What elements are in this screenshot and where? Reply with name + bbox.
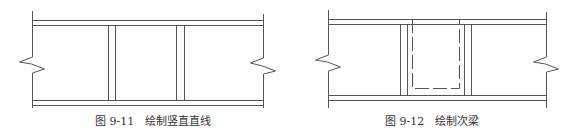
right-break-line-icon (534, 12, 559, 108)
secondary-beam-dashed-outline (413, 19, 460, 89)
right-break-line-icon (251, 14, 276, 108)
beam-drawings (0, 0, 574, 137)
caption-figure-9-11: 图 9-11 绘制竖直直线 (95, 116, 211, 128)
drawing-secondary-beam (316, 10, 559, 108)
caption-figure-9-12: 图 9-12 绘制次梁 (385, 116, 479, 128)
figure-panel: 图 9-11 绘制竖直直线 图 9-12 绘制次梁 (0, 0, 574, 137)
drawing-vertical-lines (20, 11, 276, 108)
